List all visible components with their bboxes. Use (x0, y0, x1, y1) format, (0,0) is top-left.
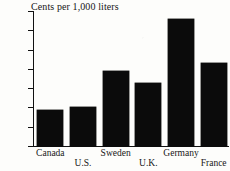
bar-uk (135, 83, 161, 146)
x-label-germany: Germany (151, 148, 211, 158)
x-label-canada: Canada (20, 148, 80, 158)
x-label-france: France (184, 158, 230, 168)
bar-series (33, 0, 229, 147)
bar-france (201, 63, 227, 146)
x-label-sweden: Sweden (86, 148, 146, 158)
bar-sweden (103, 71, 129, 146)
x-axis-labels: CanadaU.S.SwedenU.K.GermanyFrance (0, 146, 230, 171)
x-label-us: U.S. (53, 158, 113, 168)
bar-chart: Cents per 1,000 liters 02040608010012014… (0, 0, 230, 171)
x-label-uk: U.K. (118, 158, 178, 168)
bar-canada (37, 110, 63, 146)
bar-us (70, 107, 96, 146)
bar-germany (168, 19, 194, 146)
